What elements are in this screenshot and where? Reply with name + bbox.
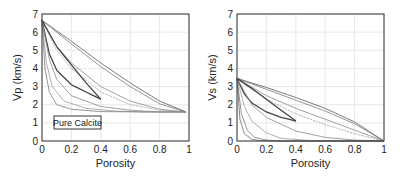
annotation-box: Pure Calcite xyxy=(53,116,102,129)
y-tick-label: 3 xyxy=(32,81,38,92)
annotation-text: Pure Calcite xyxy=(53,118,102,128)
y-tick-label: 6 xyxy=(32,27,38,38)
x-tick-label: 0.4 xyxy=(289,144,303,155)
y-tick-label: 5 xyxy=(227,45,233,56)
x-tick-label: 0.4 xyxy=(94,144,108,155)
y-tick-label: 7 xyxy=(227,9,233,20)
y-tick-label: 7 xyxy=(32,9,38,20)
x-axis-label: Porosity xyxy=(96,157,136,169)
vs-porosity-plot: 00.20.40.60.8101234567PorosityVs (km/s) xyxy=(206,9,387,170)
x-tick-label: 0.8 xyxy=(348,144,362,155)
x-tick-label: 1 xyxy=(381,144,387,155)
x-tick-label: 0.8 xyxy=(153,144,167,155)
y-tick-label: 1 xyxy=(32,117,38,128)
x-tick-label: 0.6 xyxy=(318,144,332,155)
y-tick-label: 6 xyxy=(227,27,233,38)
plot-area xyxy=(237,14,384,141)
y-tick-label: 2 xyxy=(227,99,233,110)
y-tick-label: 4 xyxy=(227,63,233,74)
y-tick-label: 5 xyxy=(32,45,38,56)
x-axis-label: Porosity xyxy=(291,157,331,169)
y-tick-label: 4 xyxy=(32,63,38,74)
x-tick-label: 0 xyxy=(234,144,240,155)
y-tick-label: 3 xyxy=(227,81,233,92)
figure: 00.20.40.60.8101234567PorosityVp (km/s)P… xyxy=(0,0,400,178)
y-axis-label: Vp (km/s) xyxy=(11,54,23,101)
x-tick-label: 1 xyxy=(186,144,192,155)
y-axis-label: Vs (km/s) xyxy=(206,54,218,100)
vp-porosity-plot: 00.20.40.60.8101234567PorosityVp (km/s)P… xyxy=(11,9,192,170)
y-tick-label: 1 xyxy=(227,117,233,128)
x-tick-label: 0.6 xyxy=(123,144,137,155)
y-tick-label: 0 xyxy=(32,136,38,147)
x-tick-label: 0.2 xyxy=(259,144,273,155)
x-tick-label: 0.2 xyxy=(64,144,78,155)
x-tick-label: 0 xyxy=(39,144,45,155)
y-tick-label: 0 xyxy=(227,136,233,147)
y-tick-label: 2 xyxy=(32,99,38,110)
